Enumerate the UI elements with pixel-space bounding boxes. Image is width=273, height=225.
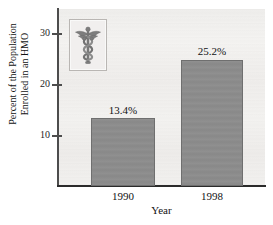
y-tick-mark-10 xyxy=(52,135,62,137)
bar-value-1990: 13.4% xyxy=(93,104,153,116)
bar-1990 xyxy=(91,118,155,186)
y-axis-title-line-1: Percent of the Population xyxy=(7,0,19,149)
x-tick-label-1990: 1990 xyxy=(93,190,153,202)
caduceus-icon xyxy=(73,24,103,66)
y-axis-title: Percent of the Population Enrolled in an… xyxy=(7,0,31,149)
y-tick-mark-30 xyxy=(52,33,62,35)
x-tick-label-1998: 1998 xyxy=(182,190,242,202)
chart-figure: 30 20 10 13.4% 25.2% 1990 1998 Percent o… xyxy=(0,0,273,225)
bar-1998 xyxy=(181,60,243,186)
bar-value-1998: 25.2% xyxy=(182,45,242,57)
y-tick-mark-20 xyxy=(52,84,62,86)
y-axis-title-line-2: Enrolled in an HMO xyxy=(19,0,31,149)
caduceus-inset-box xyxy=(69,19,107,71)
x-axis-title: Year xyxy=(58,204,265,216)
